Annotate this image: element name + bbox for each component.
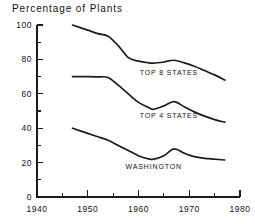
y-tick-label: 60 [21,89,32,99]
axis-ticks [37,25,240,197]
line-chart-plot: 02040608010019401950196019701980 TOP 8 S… [0,0,255,224]
x-tick-label: 1960 [128,204,149,214]
x-tick-label: 1940 [26,204,47,214]
y-tick-label: 0 [27,192,32,202]
y-tick-label: 40 [21,123,32,133]
series-lines [73,25,225,160]
axis-spines [37,25,240,197]
y-tick-label: 80 [21,54,32,64]
y-tick-label: 100 [16,20,32,30]
x-tick-label: 1970 [179,204,200,214]
series-label: WASHINGTON [126,163,182,170]
axis-tick-labels: 02040608010019401950196019701980 [16,20,250,214]
x-tick-label: 1980 [229,204,250,214]
series-line-2 [73,128,225,160]
axes [37,25,240,197]
chart-container: Percentage of Plants 0204060801001940195… [0,0,255,224]
y-tick-label: 20 [21,158,32,168]
x-tick-label: 1950 [77,204,98,214]
series-label: TOP 8 STATES [140,69,198,76]
series-label: TOP 4 STATES [140,112,198,119]
